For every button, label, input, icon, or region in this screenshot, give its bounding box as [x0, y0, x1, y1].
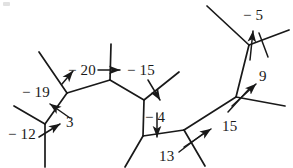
- tick-mark-h: [259, 33, 268, 57]
- edge-label-minus-15: − 15: [127, 63, 155, 78]
- arrow-minus-12: [39, 124, 60, 137]
- leaf-edge-a-upper-left: [14, 106, 45, 124]
- edge-label-9: 9: [259, 69, 267, 84]
- edge-label-minus-4: − 4: [145, 110, 165, 125]
- diagram-canvas: − 5− 20− 15− 199− 4315− 1213: [0, 0, 293, 168]
- edge-label-minus-20: − 20: [68, 63, 96, 78]
- leaf-edge-g-right: [236, 97, 285, 106]
- edge-label-minus-12: − 12: [8, 127, 36, 142]
- leaf-edge-e-down-left: [125, 136, 143, 167]
- edge-b-c: [67, 80, 110, 93]
- arrow-9: [232, 84, 256, 106]
- edge-d-e: [143, 100, 144, 136]
- edge-label-minus-5: − 5: [243, 8, 263, 23]
- arrow-minus-15-pointer: [148, 80, 160, 100]
- leaf-edge-c-up: [110, 44, 111, 80]
- edge-e-f: [143, 130, 184, 136]
- edge-label-minus-19: − 19: [22, 85, 50, 100]
- tick-marks-group: [179, 33, 268, 152]
- edge-label-13: 13: [159, 149, 174, 164]
- leaf-edge-h-upper-right: [249, 30, 289, 45]
- arrow-minus-5: [250, 31, 253, 60]
- edge-label-15: 15: [222, 119, 237, 134]
- edge-c-d: [110, 80, 144, 100]
- edge-label-3: 3: [66, 115, 74, 130]
- edge-g-h: [236, 45, 249, 97]
